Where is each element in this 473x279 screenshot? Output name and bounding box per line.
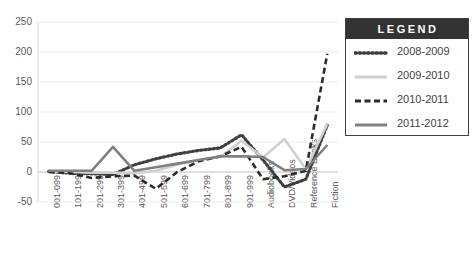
series-line (49, 124, 328, 173)
legend-label: 2010-2011 (397, 93, 449, 105)
series-line (49, 145, 328, 171)
legend-label: 2011-2012 (397, 117, 449, 129)
legend-items: 2008-20092009-20102010-20112011-2012 (346, 39, 468, 135)
legend-item[interactable]: 2008-2009 (346, 39, 468, 63)
legend-item[interactable]: 2009-2010 (346, 63, 468, 87)
legend-item[interactable]: 2010-2011 (346, 87, 468, 111)
legend-label: 2009-2010 (397, 69, 450, 81)
legend-title: LEGEND (346, 19, 468, 39)
legend-item[interactable]: 2011-2012 (346, 111, 468, 135)
line-chart: 250200150100500-50 001-099101-199201-299… (0, 0, 473, 279)
legend-swatch-icon (354, 69, 388, 81)
legend-swatch-icon (354, 93, 388, 105)
series-line (49, 54, 328, 189)
legend: LEGEND 2008-20092009-20102010-20112011-2… (345, 18, 469, 136)
legend-swatch-icon (354, 45, 388, 57)
legend-label: 2008-2009 (397, 45, 450, 57)
legend-swatch-icon (354, 117, 388, 129)
